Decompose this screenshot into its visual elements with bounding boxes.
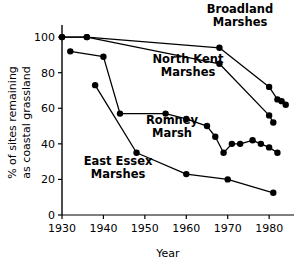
x-tick-label: 1970 bbox=[214, 222, 242, 235]
data-point bbox=[274, 150, 280, 156]
line-chart: 020406080100 193019401950196019701980 Br… bbox=[0, 0, 301, 272]
data-point bbox=[283, 102, 289, 108]
data-point bbox=[212, 134, 218, 140]
x-axis-ticks: 193019401950196019701980 bbox=[48, 215, 283, 235]
data-point bbox=[183, 171, 189, 177]
chart-container: 020406080100 193019401950196019701980 Br… bbox=[0, 0, 301, 272]
data-point bbox=[249, 137, 255, 143]
data-point bbox=[117, 110, 123, 116]
series-label-line: East Essex bbox=[84, 154, 153, 168]
y-axis-ticks: 020406080100 bbox=[34, 31, 62, 222]
data-point bbox=[220, 150, 226, 156]
data-point bbox=[229, 141, 235, 147]
y-axis-title-line-1: % of sites remaining bbox=[6, 66, 19, 179]
romney-label: RomneyMarsh bbox=[146, 113, 199, 140]
x-axis-title: Year bbox=[155, 247, 180, 260]
y-tick-label: 0 bbox=[48, 209, 55, 222]
series-label-line: Marshes bbox=[91, 167, 146, 181]
data-point bbox=[84, 34, 90, 40]
series-label-line: Broadland bbox=[207, 2, 273, 16]
data-point bbox=[225, 176, 231, 182]
broadland-label: BroadlandMarshes bbox=[207, 2, 273, 29]
x-tick-label: 1930 bbox=[48, 222, 76, 235]
north-kent-label: North KentMarshes bbox=[152, 52, 224, 79]
series-label-line: Marshes bbox=[213, 15, 268, 29]
series-label-line: North Kent bbox=[152, 52, 224, 66]
series-label-line: Marsh bbox=[152, 126, 192, 140]
data-point bbox=[270, 190, 276, 196]
data-point bbox=[266, 144, 272, 150]
chart-annotations-group: BroadlandMarshesNorth KentMarshesRomneyM… bbox=[84, 2, 274, 181]
y-tick-label: 20 bbox=[41, 173, 55, 186]
y-tick-label: 60 bbox=[41, 102, 55, 115]
y-tick-label: 80 bbox=[41, 67, 55, 80]
y-axis-title-line-2: as coastal grassland bbox=[20, 66, 33, 178]
y-tick-label: 100 bbox=[34, 31, 55, 44]
data-point bbox=[216, 45, 222, 51]
y-tick-label: 40 bbox=[41, 138, 55, 151]
data-point bbox=[204, 123, 210, 129]
x-tick-label: 1940 bbox=[89, 222, 117, 235]
data-point bbox=[67, 48, 73, 54]
data-point bbox=[266, 84, 272, 90]
data-point bbox=[258, 141, 264, 147]
data-point bbox=[237, 141, 243, 147]
east-essex-label: East EssexMarshes bbox=[84, 154, 153, 181]
data-point bbox=[270, 119, 276, 125]
data-point bbox=[100, 53, 106, 59]
x-tick-label: 1960 bbox=[172, 222, 200, 235]
series-label-line: Romney bbox=[146, 113, 199, 127]
series-line bbox=[62, 37, 273, 122]
series-label-line: Marshes bbox=[161, 65, 216, 79]
x-tick-label: 1950 bbox=[131, 222, 159, 235]
data-point bbox=[266, 112, 272, 118]
data-point bbox=[59, 34, 65, 40]
x-tick-label: 1980 bbox=[255, 222, 283, 235]
data-point bbox=[92, 82, 98, 88]
